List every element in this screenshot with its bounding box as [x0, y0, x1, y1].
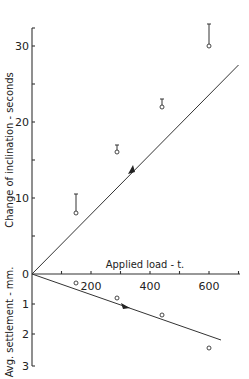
y-tick-3mm: 3: [22, 360, 29, 373]
upper-y-axis-label: Change of inclination - seconds: [3, 72, 16, 227]
y-tick-1mm: 1: [22, 298, 29, 311]
x-tick-600: 600: [199, 280, 220, 293]
lower-y-axis-label: Avg. settlement - mm.: [3, 267, 16, 378]
settlement-arrow-icon: [121, 303, 130, 309]
y-tick-2mm: 2: [22, 328, 29, 341]
y-tick-20: 20: [15, 116, 29, 129]
x-axis-label: Applied load - t.: [106, 258, 184, 271]
chart: 30 20 10 0 1 2 3 200 400 600 Applied loa…: [0, 0, 249, 379]
x-tick-200: 200: [81, 280, 102, 293]
inclination-arrow-icon: [128, 165, 135, 174]
y-tick-10: 10: [15, 192, 29, 205]
inclination-points: [74, 24, 211, 215]
y-tick-30: 30: [15, 40, 29, 53]
x-tick-400: 400: [140, 280, 161, 293]
y-tick-0: 0: [22, 268, 29, 281]
inclination-trend-line: [32, 65, 239, 274]
